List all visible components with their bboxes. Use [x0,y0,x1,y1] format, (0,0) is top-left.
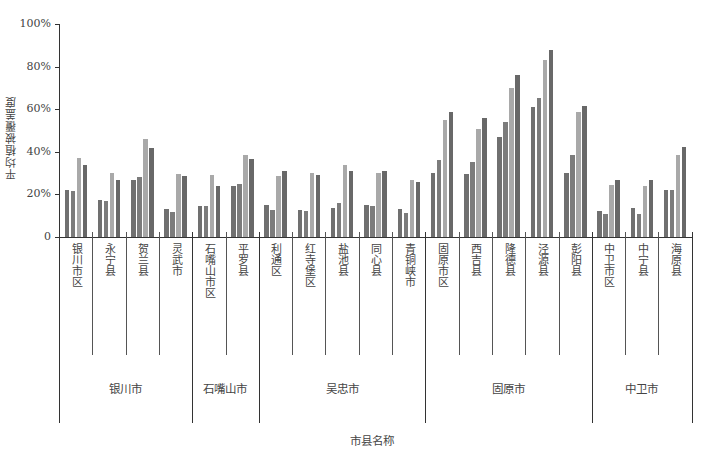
bar-series-3 [210,175,215,237]
bar-series-1 [564,173,569,237]
bar-series-1 [131,180,136,238]
bar-series-4 [682,147,687,237]
bar-series-2 [570,155,575,237]
category-label: 海原县 [668,243,682,276]
bar-series-1 [364,205,369,237]
bar-series-1 [198,206,203,237]
category-divider [625,232,626,355]
bar-series-2 [470,162,475,237]
bar-series-4 [83,165,88,237]
category-label: 贺兰县 [135,243,149,276]
bar-series-3 [276,176,281,237]
bar-series-4 [549,50,554,237]
category-divider [292,232,293,355]
category-label: 西吉县 [468,243,482,276]
category-label: 泾源县 [535,243,549,276]
category-label: 盐池县 [335,243,349,276]
category-divider [126,232,127,355]
category-divider [359,232,360,355]
bar-series-1 [264,205,269,237]
bar-series-3 [243,155,248,237]
bar-series-1 [298,210,303,237]
bar-series-2 [370,206,375,237]
bar-series-2 [237,184,242,237]
bar-series-3 [110,173,115,237]
category-label: 利通区 [268,243,282,276]
y-tick-label: 0 [9,230,51,243]
bar-series-4 [116,180,121,238]
bar-series-2 [404,213,409,237]
y-tick-label: 100% [9,17,51,30]
category-label: 隆德县 [502,243,516,276]
bar-series-2 [137,177,142,237]
bar-series-1 [98,200,103,237]
bar-series-4 [649,180,654,237]
category-label: 中宁县 [635,243,649,276]
y-tick-mark [55,67,59,68]
bar-series-1 [464,174,469,237]
bar-series-4 [249,159,254,237]
bar-series-1 [431,173,436,237]
group-divider [592,232,593,423]
category-divider [492,232,493,355]
category-divider [159,232,160,355]
bar-series-1 [631,208,636,237]
y-tick-mark [55,24,59,25]
bar-series-2 [337,203,342,237]
group-divider [59,232,60,423]
bar-series-1 [497,137,502,237]
category-label: 永宁县 [102,243,116,276]
bar-series-1 [331,208,336,237]
bar-series-3 [410,180,415,237]
y-tick-label: 20% [9,187,51,200]
bar-series-2 [204,206,209,237]
bar-series-3 [576,112,581,237]
x-axis-label: 市县名称 [350,432,394,448]
bar-series-3 [143,139,148,237]
bar-series-1 [164,209,169,237]
bar-series-2 [503,122,508,237]
bar-series-4 [582,106,587,237]
bar-series-2 [71,191,76,237]
bar-series-1 [597,211,602,237]
bar-series-1 [664,190,669,237]
bar-series-4 [482,118,487,237]
category-label: 中卫市区 [601,243,615,287]
bar-series-4 [182,176,187,237]
bar-series-4 [149,148,154,238]
bar-series-3 [643,186,648,238]
bar-series-2 [670,190,675,237]
category-label: 石嘴山市区 [202,243,216,298]
bar-series-1 [398,209,403,237]
x-axis-line [59,237,693,238]
category-label: 灵武市 [169,243,183,276]
bar-series-3 [443,120,448,237]
category-divider [658,232,659,355]
group-label: 固原市 [425,380,592,396]
bar-series-4 [216,186,221,237]
bar-series-3 [77,158,82,237]
bar-series-1 [65,190,70,237]
bar-series-3 [343,165,348,237]
category-divider [559,232,560,355]
y-tick-mark [55,194,59,195]
bar-series-2 [304,211,309,237]
y-tick-label: 80% [9,60,51,73]
bar-series-3 [676,155,681,237]
y-tick-mark [55,152,59,153]
bar-series-1 [231,186,236,238]
group-label: 吴忠市 [259,380,426,396]
bar-series-4 [615,180,620,238]
category-label: 平罗县 [235,243,249,276]
bar-series-4 [349,171,354,237]
category-label: 银川市区 [69,243,83,287]
bar-series-3 [509,88,514,237]
category-label: 彭阳县 [568,243,582,276]
bar-series-4 [416,182,421,237]
bar-series-2 [270,210,275,237]
y-tick-label: 40% [9,145,51,158]
category-divider [325,232,326,355]
group-divider [692,232,693,423]
category-label: 固原市区 [435,243,449,287]
bar-series-2 [537,98,542,237]
